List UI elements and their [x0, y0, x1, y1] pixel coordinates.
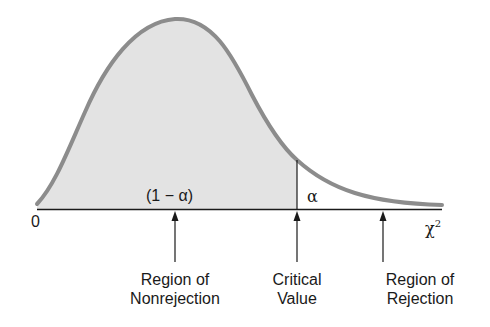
nonrejection-shaded-area	[37, 19, 297, 209]
callout-region-of-nonrejection: Region of Nonrejection	[130, 270, 220, 308]
arrow-rejection	[380, 211, 387, 262]
arrow-critical-value	[294, 211, 301, 262]
chi-symbol: χ	[425, 219, 435, 238]
nonrejection-area-label: (1 − α)	[146, 186, 193, 205]
callout-line-2: Rejection	[386, 289, 455, 308]
superscript-two: 2	[435, 218, 441, 229]
origin-label: 0	[31, 212, 40, 231]
callout-line-1: Region of	[386, 270, 455, 289]
callout-line-2: Value	[273, 289, 322, 308]
callout-critical-value: Critical Value	[273, 270, 322, 308]
callout-region-of-rejection: Region of Rejection	[386, 270, 455, 308]
chi-square-axis-label: χ2	[425, 214, 441, 238]
callout-line-2: Nonrejection	[130, 289, 220, 308]
callout-line-1: Critical	[273, 270, 322, 289]
arrow-nonrejection	[172, 211, 179, 262]
alpha-area-label: α	[307, 187, 318, 206]
callout-line-1: Region of	[130, 270, 220, 289]
